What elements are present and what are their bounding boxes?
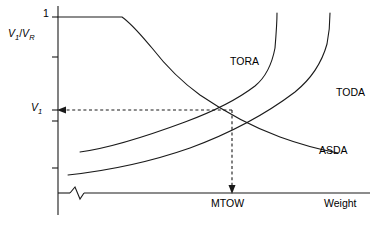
x-axis-title: Weight xyxy=(324,198,357,209)
axis-break-zigzag-icon xyxy=(70,187,84,199)
curve-label-toda: TODA xyxy=(336,87,365,98)
y-axis-title-numerator: V xyxy=(8,27,15,39)
chart-plot-area xyxy=(0,0,378,234)
y-tick-label-one: 1 xyxy=(43,8,49,19)
x-tick-label-mtow: MTOW xyxy=(211,198,244,209)
y-tick-label-v1: V1 xyxy=(31,102,42,113)
curve-label-asda: ASDA xyxy=(319,145,348,156)
y-axis-title-numerator-sub: 1 xyxy=(15,33,19,42)
chart-container: V1/VR 1 V1 TORA TODA ASDA MTOW Weight xyxy=(0,0,378,234)
curve-asda xyxy=(58,17,338,153)
curve-label-tora: TORA xyxy=(230,56,259,67)
y-axis-title: V1/VR xyxy=(8,28,35,39)
y-tick-label-v1-var: V xyxy=(31,101,38,113)
y-axis-title-denominator-sub: R xyxy=(29,33,34,42)
curve-tora xyxy=(80,13,277,152)
y-tick-label-v1-sub: 1 xyxy=(38,107,42,116)
